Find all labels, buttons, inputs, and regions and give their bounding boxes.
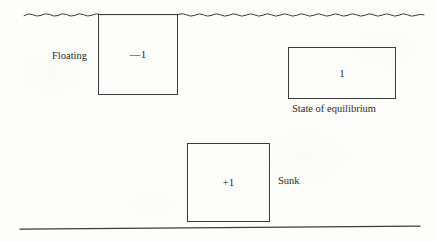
label-sunk: Sunk <box>278 176 300 187</box>
box-equilibrium-value: 1 <box>339 68 345 79</box>
box-sunk: +1 <box>187 143 270 222</box>
label-state-of-equilibrium: State of equilibrium <box>292 104 376 115</box>
box-floating: —1 <box>98 14 178 95</box>
label-floating: Floating <box>52 51 87 62</box>
buoyancy-diagram: —1 Floating 1 State of equilibrium +1 Su… <box>0 0 436 241</box>
seabed-line-icon <box>20 226 420 229</box>
water-surface-wave-icon <box>24 14 424 17</box>
box-equilibrium: 1 <box>288 47 396 99</box>
box-sunk-value: +1 <box>222 177 234 188</box>
box-floating-value: —1 <box>130 49 147 60</box>
